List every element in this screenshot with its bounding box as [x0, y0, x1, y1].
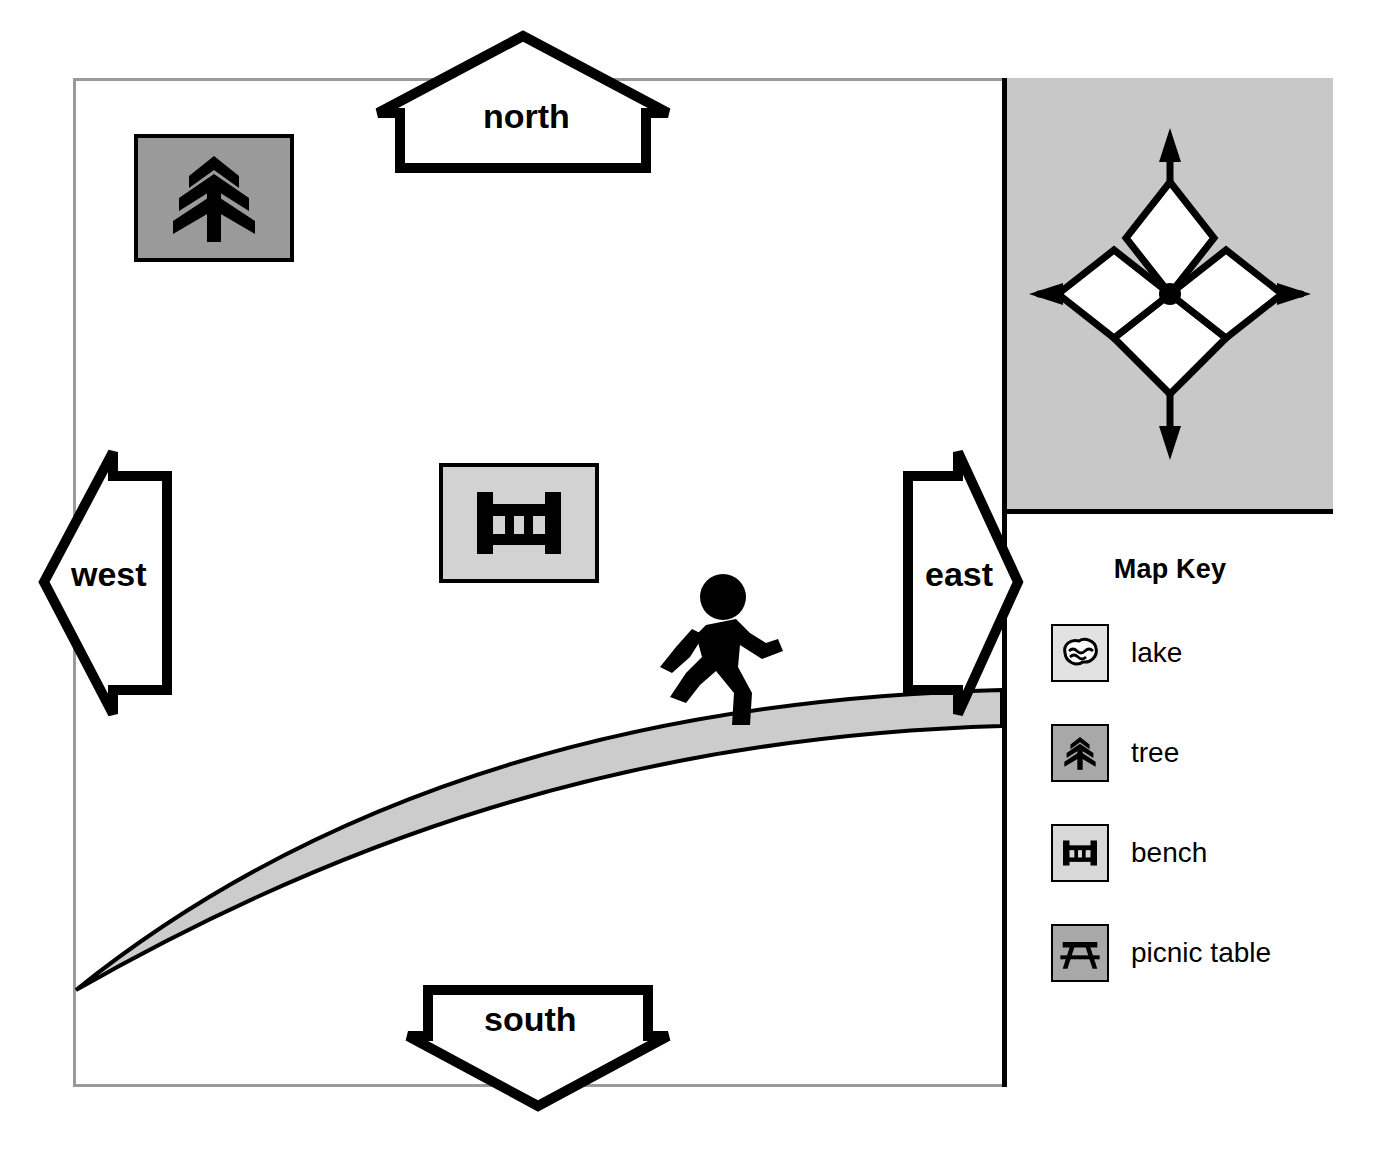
east-arrow-label: east: [925, 555, 993, 594]
map-scene: Map Key lake: [0, 0, 1393, 1150]
south-arrow-label: south: [484, 1000, 577, 1039]
west-arrow-label: west: [71, 555, 147, 594]
direction-arrows: [0, 0, 1393, 1150]
north-arrow-label: north: [483, 97, 570, 136]
